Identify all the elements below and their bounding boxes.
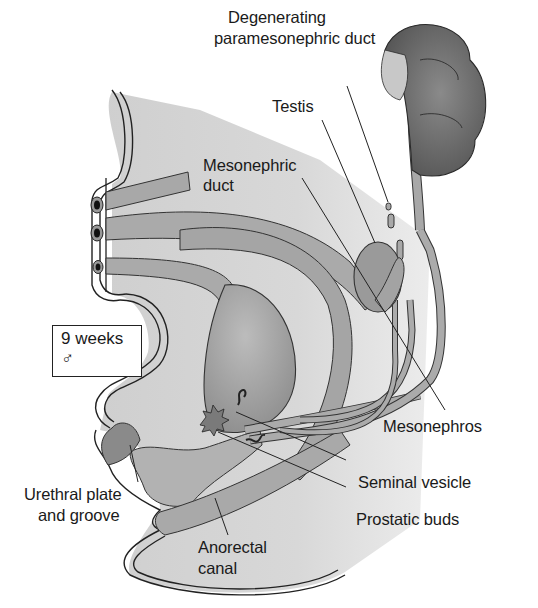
label-urethral-plate-line2: and groove — [38, 506, 120, 525]
label-anorectal-canal-line1: Anorectal — [198, 538, 267, 557]
label-degenerating-duct-line1: Degenerating — [228, 8, 326, 27]
label-anorectal-canal-line2: canal — [198, 559, 237, 578]
label-prostatic-buds: Prostatic buds — [356, 510, 459, 529]
mesonephros-organ — [381, 25, 485, 176]
umbilical-vessels — [91, 197, 103, 274]
stage-box: 9 weeks ♂ — [52, 325, 142, 377]
label-mesonephros: Mesonephros — [383, 417, 482, 436]
male-symbol-icon: ♂ — [61, 349, 141, 369]
stage-age: 9 weeks — [61, 329, 141, 349]
label-urethral-plate-line1: Urethral plate — [24, 485, 122, 504]
label-seminal-vesicle: Seminal vesicle — [358, 473, 471, 492]
label-degenerating-duct-line2: paramesonephric duct — [214, 29, 375, 48]
label-testis: Testis — [272, 97, 314, 116]
label-mesonephric-duct-line2: duct — [203, 176, 234, 195]
label-mesonephric-duct-line1: Mesonephric — [203, 156, 296, 175]
